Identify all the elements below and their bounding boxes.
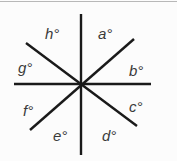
angle-label-g: g° [18,60,32,75]
angle-label-h: h° [45,26,59,41]
intersecting-lines [0,0,177,161]
angle-label-c: c° [129,99,143,114]
angle-label-f: f° [23,103,33,118]
angle-label-b: b° [129,63,143,78]
angle-diagram: h° a° g° b° f° c° e° d° [0,0,177,161]
angle-label-e: e° [53,128,67,143]
angle-label-d: d° [102,128,116,143]
angle-label-a: a° [98,26,112,41]
